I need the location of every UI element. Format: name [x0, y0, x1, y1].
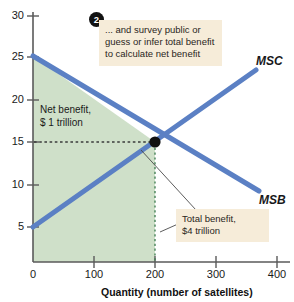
- step-callout-box: ... and survey public or guess or infer …: [99, 20, 222, 66]
- y-tick-30: 30: [0, 9, 24, 21]
- net-benefit-shaded-area: [33, 56, 155, 262]
- y-tick-25: 25: [0, 50, 24, 62]
- x-axis-title: Quantity (number of satellites): [101, 286, 253, 298]
- x-tick-0: 0: [13, 268, 53, 280]
- x-tick-300: 300: [196, 268, 236, 280]
- equilibrium-point-marker: [149, 136, 160, 147]
- y-tick-10: 10: [0, 178, 24, 190]
- y-tick-5: 5: [0, 220, 24, 232]
- x-tick-200: 200: [135, 268, 175, 280]
- y-tick-15: 15: [0, 135, 24, 147]
- economics-chart-figure: 30 25 20 15 10 5 0 100 200 300 400 Quant…: [0, 0, 294, 302]
- x-tick-400: 400: [257, 268, 294, 280]
- net-benefit-label: Net benefit, $ 1 trillion: [40, 104, 91, 129]
- x-tick-100: 100: [74, 268, 114, 280]
- msc-curve-label: MSC: [256, 54, 283, 68]
- total-benefit-label: Total benefit, $4 trillion: [176, 209, 269, 242]
- y-tick-20: 20: [0, 93, 24, 105]
- msb-curve-label: MSB: [259, 193, 286, 207]
